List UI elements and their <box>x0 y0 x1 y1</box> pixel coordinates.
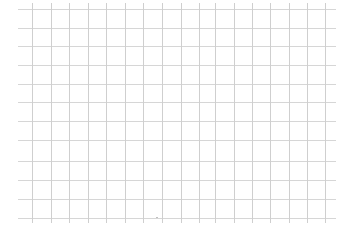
grid-vertical-line <box>32 3 33 223</box>
grid-vertical-line <box>181 3 182 223</box>
grid-vertical-line <box>234 3 235 223</box>
grid-vertical-line <box>289 3 290 223</box>
stray-mark <box>156 217 158 218</box>
grid-vertical-line <box>215 3 216 223</box>
grid-vertical-line <box>51 3 52 223</box>
grid-vertical-line <box>162 3 163 223</box>
grid-vertical-line <box>106 3 107 223</box>
grid-vertical-line <box>270 3 271 223</box>
grid-canvas <box>0 0 348 240</box>
grid-vertical-line <box>199 3 200 223</box>
grid-vertical-line <box>88 3 89 223</box>
grid-vertical-line <box>143 3 144 223</box>
grid-vertical-line <box>252 3 253 223</box>
grid-vertical-line <box>125 3 126 223</box>
grid-vertical-line <box>325 3 326 223</box>
grid-vertical-line <box>69 3 70 223</box>
grid-vertical-line <box>307 3 308 223</box>
